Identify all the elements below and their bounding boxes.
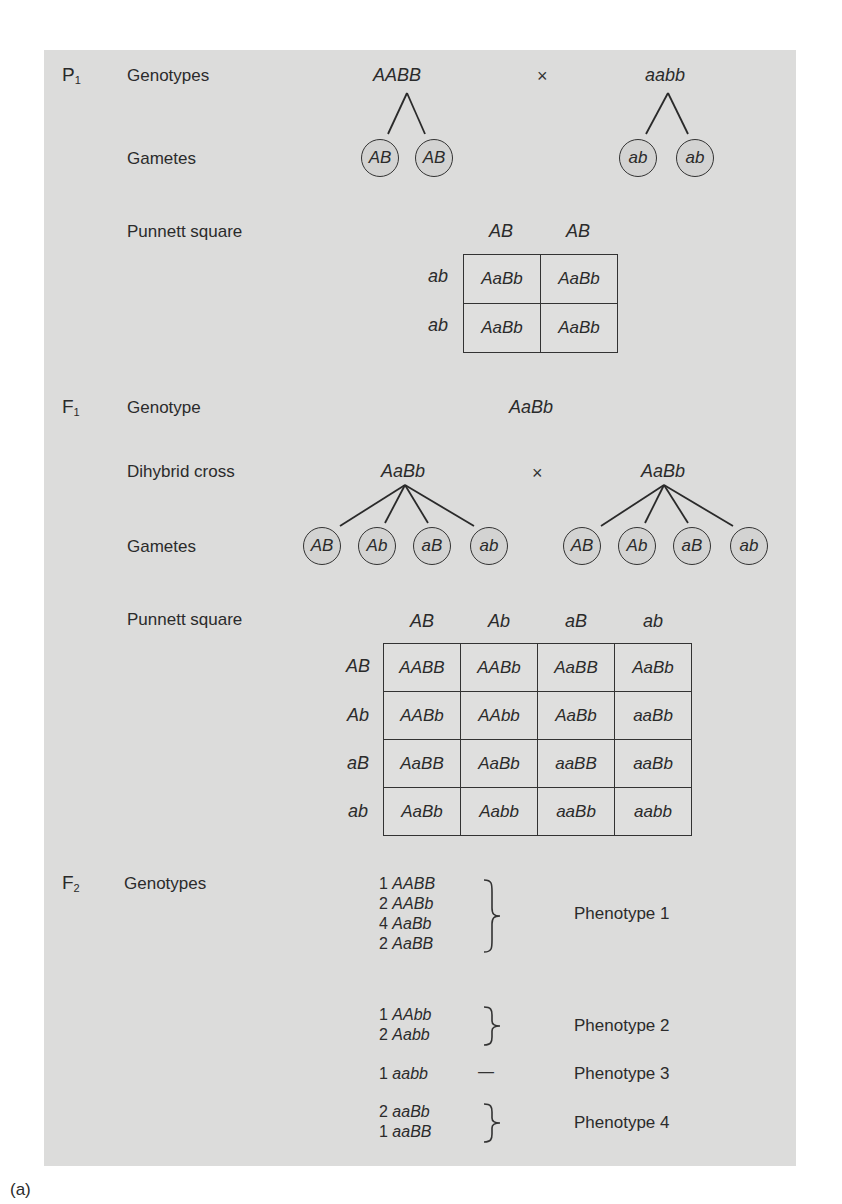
punnett-row-header: AB — [343, 656, 373, 677]
f2-genotype-item: 4 AaBb — [379, 914, 435, 934]
punnett-cell: AaBb — [461, 740, 538, 788]
p1-parent2-genotype: aabb — [645, 65, 685, 86]
punnett-col-header: AB — [563, 221, 593, 242]
gamete-circle: aB — [413, 527, 451, 565]
punnett-cell: AABB — [384, 644, 461, 692]
f1-parent2-genotype: AaBb — [641, 461, 685, 482]
generation-f1-label: F1 — [62, 396, 80, 418]
f2-genotype-item: 2 aaBb — [379, 1102, 432, 1122]
f2-genotype-item: 2 AaBB — [379, 934, 435, 954]
phenotype-label: Phenotype 2 — [574, 1016, 669, 1036]
figure-caption: (a) — [10, 1180, 31, 1200]
punnett-cell: AaBb — [541, 255, 618, 304]
brace-icon — [480, 1102, 504, 1144]
f2-genotype-item: 1 aabb — [379, 1064, 428, 1084]
gamete-circle: ab — [730, 527, 768, 565]
punnett-row-header: ab — [343, 801, 373, 822]
f2-genotype-group-4: 2 aaBb 1 aaBB — [379, 1102, 432, 1142]
generation-p1-label: P1 — [62, 64, 81, 86]
f2-genotype-group-3: 1 aabb — [379, 1064, 428, 1084]
p1-parent1-genotype: AABB — [373, 65, 421, 86]
p1-gametes-label: Gametes — [127, 149, 196, 169]
punnett-cell: AaBb — [464, 304, 541, 353]
f2-genotypes-label: Genotypes — [124, 874, 206, 894]
punnett-cell: AaBb — [464, 255, 541, 304]
dash-connector: — — [478, 1063, 494, 1081]
punnett-col-header: AB — [486, 221, 516, 242]
gamete-circle: Ab — [618, 527, 656, 565]
f1-parent1-genotype: AaBb — [381, 461, 425, 482]
f1-punnett-label: Punnett square — [127, 610, 242, 630]
gamete-circle: ab — [470, 527, 508, 565]
gamete-circle: ab — [619, 139, 657, 177]
gamete-circle: AB — [563, 527, 601, 565]
punnett-cell: AaBb — [615, 644, 692, 692]
punnett-cell: AaBb — [538, 692, 615, 740]
f1-punnett-square: AABB AABb AaBB AaBb AABb AAbb AaBb aaBb … — [383, 643, 692, 836]
diagram-panel — [44, 50, 796, 1166]
punnett-col-header: aB — [561, 611, 591, 632]
punnett-row-header: ab — [423, 315, 453, 336]
punnett-row-header: Ab — [343, 705, 373, 726]
gamete-circle: aB — [673, 527, 711, 565]
cross-symbol: × — [537, 66, 548, 87]
punnett-cell: AaBB — [538, 644, 615, 692]
punnett-cell: aaBB — [538, 740, 615, 788]
f1-gametes-label: Gametes — [127, 537, 196, 557]
cross-symbol: × — [532, 463, 543, 484]
phenotype-label: Phenotype 3 — [574, 1064, 669, 1084]
f2-genotype-item: 2 AABb — [379, 894, 435, 914]
punnett-cell: AAbb — [461, 692, 538, 740]
brace-icon — [480, 1005, 504, 1047]
p1-genotypes-label: Genotypes — [127, 66, 209, 86]
punnett-cell: AABb — [461, 644, 538, 692]
punnett-cell: Aabb — [461, 788, 538, 836]
punnett-row-header: ab — [423, 266, 453, 287]
gamete-circle: AB — [415, 139, 453, 177]
gamete-circle: Ab — [358, 527, 396, 565]
f2-genotype-item: 1 AABB — [379, 874, 435, 894]
gamete-circle: AB — [361, 139, 399, 177]
f1-genotype-label: Genotype — [127, 398, 201, 418]
punnett-row-header: aB — [343, 753, 373, 774]
punnett-col-header: ab — [638, 611, 668, 632]
p1-punnett-square: AaBb AaBb AaBb AaBb — [463, 254, 618, 353]
phenotype-label: Phenotype 1 — [574, 904, 669, 924]
punnett-cell: aaBb — [615, 740, 692, 788]
generation-f2-label: F2 — [62, 872, 80, 894]
phenotype-label: Phenotype 4 — [574, 1113, 669, 1133]
f1-genotype: AaBb — [509, 397, 553, 418]
punnett-cell: aabb — [615, 788, 692, 836]
punnett-cell: AaBb — [384, 788, 461, 836]
brace-icon — [480, 878, 504, 954]
punnett-cell: AABb — [384, 692, 461, 740]
f1-dihybrid-label: Dihybrid cross — [127, 462, 235, 482]
f2-genotype-item: 1 AAbb — [379, 1005, 432, 1025]
f2-genotype-item: 1 aaBB — [379, 1122, 432, 1142]
f2-genotype-item: 2 Aabb — [379, 1025, 432, 1045]
f2-genotype-group-2: 1 AAbb 2 Aabb — [379, 1005, 432, 1045]
punnett-cell: aaBb — [538, 788, 615, 836]
gamete-circle: AB — [303, 527, 341, 565]
gamete-circle: ab — [676, 139, 714, 177]
punnett-col-header: Ab — [484, 611, 514, 632]
punnett-cell: AaBB — [384, 740, 461, 788]
f2-genotype-group-1: 1 AABB 2 AABb 4 AaBb 2 AaBB — [379, 874, 435, 954]
punnett-col-header: AB — [407, 611, 437, 632]
p1-punnett-label: Punnett square — [127, 222, 242, 242]
punnett-cell: aaBb — [615, 692, 692, 740]
punnett-cell: AaBb — [541, 304, 618, 353]
